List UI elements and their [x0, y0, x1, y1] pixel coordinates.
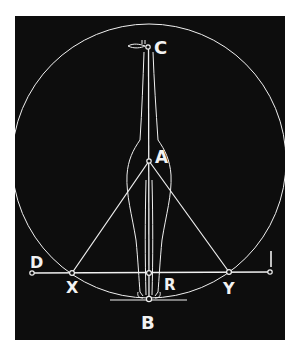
point-i	[268, 270, 272, 274]
label-d: D	[30, 253, 43, 272]
point-b	[146, 296, 151, 301]
point-c	[146, 45, 150, 49]
label-c: C	[154, 37, 167, 58]
point-r	[147, 271, 152, 276]
point-a	[147, 159, 151, 163]
label-x: X	[66, 278, 79, 297]
label-r: R	[164, 276, 176, 294]
label-b: B	[141, 312, 155, 333]
label-y: Y	[222, 279, 235, 298]
label-a: A	[155, 147, 169, 167]
point-y	[227, 270, 232, 275]
point-x	[70, 271, 75, 276]
giraffe-geometry-diagram: C A D X R Y B	[0, 0, 300, 354]
line-c-b	[149, 47, 150, 299]
black-panel	[15, 16, 285, 340]
